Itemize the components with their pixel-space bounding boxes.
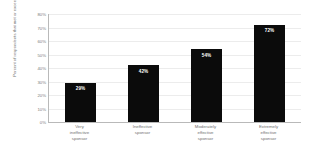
y-axis-title: Percent of respondents that met or excee… [7,0,21,77]
y-tick-label-70: 70% [24,25,46,30]
bar: 72% [254,25,285,122]
x-category-label: Very ineffective sponsor [48,124,111,143]
bar-value-label: 54% [202,53,211,122]
bar: 42% [128,65,159,122]
x-axis-labels: Very ineffective sponsor Ineffective spo… [48,124,300,143]
bar-slot: 29% [49,14,112,122]
y-tick-label-0: 0% [24,120,46,125]
bar: 29% [65,83,96,122]
y-tick-label-80: 80% [24,12,46,17]
bar-slot: 54% [175,14,238,122]
x-category-label: Ineffective sponsor [111,124,174,143]
bar-value-label: 42% [139,69,148,122]
bar: 54% [191,49,222,122]
y-tick-label-20: 20% [24,93,46,98]
bar-value-label: 72% [265,28,274,122]
bar-chart: Percent of respondents that met or excee… [0,0,320,162]
y-tick-label-50: 50% [24,52,46,57]
bar-slot: 72% [238,14,301,122]
bar-value-label: 29% [76,86,85,122]
y-tick-label-10: 10% [24,106,46,111]
y-tick-label-30: 30% [24,79,46,84]
plot-area: 29% 42% 54% 72% [48,14,301,123]
bar-slot: 42% [112,14,175,122]
bars-layer: 29% 42% 54% 72% [49,14,301,122]
y-tick-label-40: 40% [24,66,46,71]
y-tick-label-60: 60% [24,39,46,44]
x-category-label: Extremely effective sponsor [237,124,300,143]
x-category-label: Moderately effective sponsor [174,124,237,143]
